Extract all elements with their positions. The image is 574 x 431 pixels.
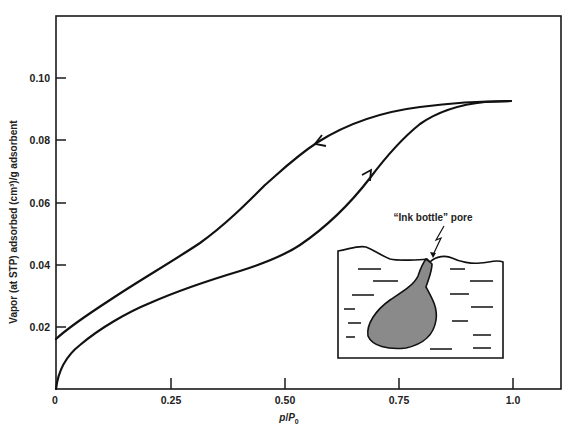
ink-bottle-pore-inset: “Ink bottle” pore [338, 212, 503, 358]
y-tick-label: 0.02 [30, 321, 51, 333]
chart-canvas: 0.02 0.04 0.06 0.08 0.10 0 0.25 0.50 0.7… [0, 0, 574, 431]
x-tick-labels: 0 0.25 0.50 0.75 1.0 [52, 394, 520, 406]
y-axis-title: Vapor (at STP) adsorbed (cm³)/g adsorben… [8, 120, 19, 324]
x-tick-label: 0 [52, 394, 58, 406]
x-axis-title: p/P0 [278, 412, 299, 425]
x-tick-label: 0.75 [389, 394, 410, 406]
y-tick-label: 0.08 [30, 134, 51, 146]
y-tick-label: 0.10 [30, 72, 51, 84]
inset-label: “Ink bottle” pore [394, 212, 473, 223]
y-axis [56, 78, 66, 327]
pointer-arrow-icon [433, 226, 444, 255]
adsorption-arrow-icon [362, 170, 371, 181]
y-tick-label: 0.04 [30, 259, 51, 271]
x-axis [171, 378, 513, 389]
x-tick-label: 0.25 [161, 394, 182, 406]
y-tick-label: 0.06 [30, 197, 51, 209]
x-tick-label: 1.0 [506, 394, 521, 406]
x-tick-label: 0.50 [275, 394, 296, 406]
y-tick-labels: 0.02 0.04 0.06 0.08 0.10 [30, 72, 51, 333]
